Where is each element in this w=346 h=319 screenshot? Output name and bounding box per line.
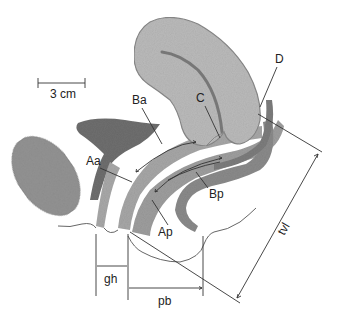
- pelvic-anatomy-diagram: 3 cm Ba C D Aa Ap Bp tvl gh pb: [0, 0, 346, 319]
- label-gh: gh: [104, 272, 117, 286]
- label-Bp: Bp: [209, 187, 224, 201]
- label-D: D: [275, 52, 284, 66]
- label-pb: pb: [158, 294, 172, 308]
- tvl-lower-extension: [130, 232, 240, 303]
- label-tvl: tvl: [274, 220, 292, 237]
- label-Ap: Ap: [158, 225, 173, 239]
- label-Aa: Aa: [86, 154, 101, 168]
- scale-bar: 3 cm: [38, 78, 85, 101]
- scale-bar-label: 3 cm: [50, 87, 76, 101]
- label-C: C: [196, 91, 205, 105]
- label-Ba: Ba: [132, 93, 147, 107]
- pubic-symphysis: [0, 124, 94, 228]
- perineum-outline: [58, 208, 256, 262]
